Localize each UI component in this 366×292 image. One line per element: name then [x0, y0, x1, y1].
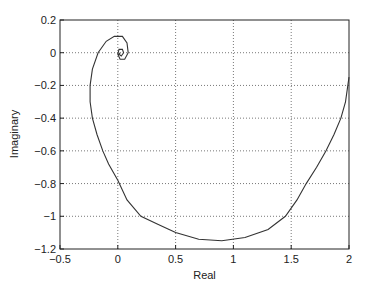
x-tick-label: 1 — [230, 253, 236, 265]
plot-frame — [60, 20, 349, 249]
grid-lines — [60, 20, 349, 249]
y-tick-label: −1.2 — [34, 243, 56, 255]
y-tick-label: −0.6 — [34, 145, 56, 157]
x-axis-label: Real — [193, 269, 216, 281]
y-tick-label: −0.8 — [34, 178, 56, 190]
nyquist-curve — [90, 36, 349, 240]
x-axis-ticks: −0.500.511.52 — [49, 245, 352, 265]
y-tick-label: −1 — [43, 210, 56, 222]
x-tick-label: 1.5 — [284, 253, 299, 265]
y-tick-label: 0.2 — [41, 14, 56, 26]
y-tick-label: −0.4 — [34, 112, 56, 124]
x-tick-label: 0 — [115, 253, 121, 265]
y-tick-label: 0 — [50, 47, 56, 59]
nyquist-chart: −0.500.511.52 0.20−0.2−0.4−0.6−0.8−1−1.2… — [0, 0, 366, 292]
x-tick-label: 2 — [346, 253, 352, 265]
y-tick-label: −0.2 — [34, 79, 56, 91]
y-axis-label: Imaginary — [8, 109, 20, 158]
x-tick-label: 0.5 — [168, 253, 183, 265]
